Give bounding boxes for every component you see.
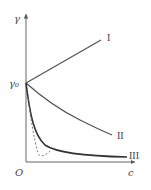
y-axis-label: γ xyxy=(14,13,20,24)
y-intercept-label: γ₀ xyxy=(9,78,19,89)
curve-I xyxy=(26,40,101,83)
curve-III xyxy=(26,83,127,157)
curve-II-label: II xyxy=(117,130,124,141)
curve-II xyxy=(26,83,112,135)
x-axis-label: c xyxy=(128,167,134,178)
curve-I-label: I xyxy=(107,32,110,43)
curve-III-label: III xyxy=(129,150,139,161)
origin-label: O xyxy=(15,167,23,178)
diagram-canvas: γ γ₀ O c I II III xyxy=(0,0,151,190)
